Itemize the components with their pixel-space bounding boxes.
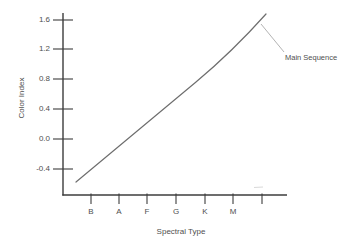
x-tick-label: M [223, 207, 243, 216]
x-tick-label: A [109, 207, 129, 216]
y-tick-label: -0.4 [18, 164, 50, 173]
x-tick-label: G [166, 207, 186, 216]
x-tick-label: B [81, 207, 101, 216]
main-sequence-line [76, 14, 266, 182]
scan-artifact-dash [254, 187, 263, 188]
y-tick-label: 1.2 [18, 44, 50, 53]
y-tick-label: 1.6 [18, 15, 50, 24]
color-index-vs-spectral-type-chart: 1.6 1.2 0.8 0.4 0.0 -0.4 B A F G K M Col… [0, 0, 341, 248]
x-tick-label: F [137, 207, 157, 216]
main-sequence-annotation: Main Sequence [285, 53, 337, 62]
y-axis-title: Color Index [17, 68, 27, 128]
annotation-leader-line [261, 24, 284, 52]
x-tick-label: K [195, 207, 215, 216]
y-tick-label: 0.0 [18, 134, 50, 143]
x-axis-title: Spectral Type [141, 227, 221, 236]
